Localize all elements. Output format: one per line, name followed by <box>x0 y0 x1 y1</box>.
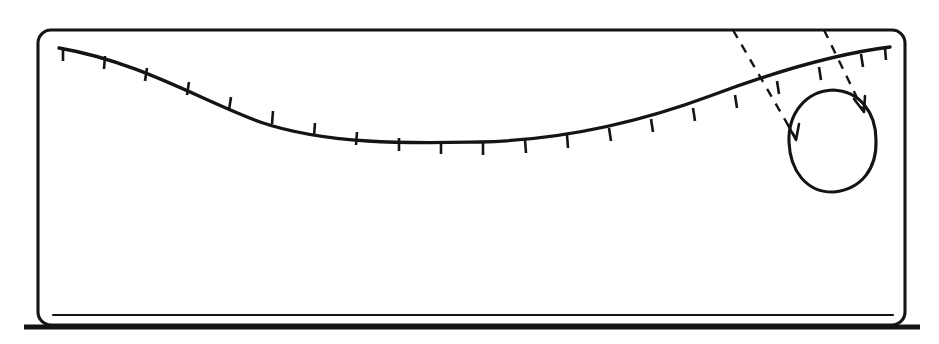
hatch-tick <box>314 123 315 136</box>
hatch-tick <box>104 56 105 69</box>
hatch-tick <box>609 128 611 141</box>
catenary-group <box>59 47 890 155</box>
figure-canvas <box>0 0 939 344</box>
hatch-tick <box>567 135 568 148</box>
leader-lines-group <box>733 30 865 140</box>
hatch-tick <box>229 97 231 110</box>
leader-right-dashed-line <box>824 30 863 110</box>
hatch-tick <box>693 108 695 121</box>
hatch-tick <box>861 54 863 67</box>
hatch-tick <box>819 67 821 80</box>
hatch-tick <box>145 68 147 81</box>
hatch-tick <box>777 81 779 94</box>
technical-diagram-svg <box>0 0 939 344</box>
hatch-tick <box>885 48 886 60</box>
circular-object <box>789 90 876 192</box>
catenary-curve <box>59 47 890 143</box>
hatch-tick <box>735 95 737 108</box>
hatch-tick <box>356 132 357 145</box>
hatch-tick-group <box>63 48 886 155</box>
hatch-tick <box>272 111 273 124</box>
hatch-tick <box>651 119 653 132</box>
hatch-tick <box>525 140 526 153</box>
circular-object-group <box>789 90 876 192</box>
